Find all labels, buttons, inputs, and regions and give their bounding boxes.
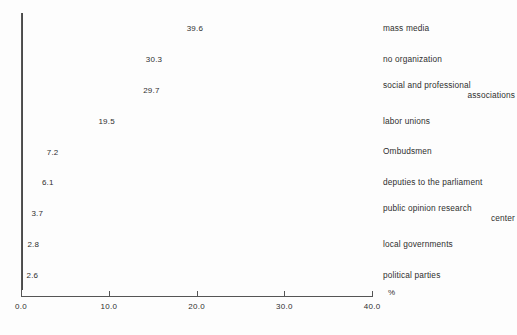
category-label-line: associations [383,90,515,101]
bar-value-label: 19.5 [21,116,192,125]
x-axis-tick [109,291,110,297]
category-label: labor unions [383,116,515,127]
x-axis-tick-label: 40.0 [364,302,381,311]
bar-value-label: 2.8 [21,239,46,248]
x-axis-tick [21,291,22,297]
bar-value-label: 7.2 [21,147,84,156]
bar-row: 30.3 [21,44,287,75]
category-label: social and professionalassociations [383,80,515,101]
bar-value-label: 30.3 [21,55,287,64]
category-label: no organization [383,54,515,65]
bar-row: 39.6 [21,13,369,44]
category-label-line: political parties [383,270,440,280]
x-axis-tick-label: 20.0 [188,302,205,311]
x-axis-tick-label: 30.0 [276,302,293,311]
category-label-line: local governments [383,239,453,249]
category-label-line: Ombudsmen [383,146,432,156]
bar-value-label: 2.6 [21,270,44,279]
bar-row: 7.2 [21,136,84,167]
category-label-line: no organization [383,54,442,64]
category-label: political parties [383,270,515,281]
category-label-line: center [383,213,515,224]
category-label: public opinion researchcenter [383,203,515,224]
category-label-line: labor unions [383,116,430,126]
bar-row: 3.7 [21,198,53,229]
axis-unit-label: % [388,288,395,297]
bar-value-label: 3.7 [21,209,53,218]
bar-row: 6.1 [21,167,75,198]
x-axis-tick-label: 0.0 [15,302,27,311]
category-label: local governments [383,239,515,250]
bar-value-label: 39.6 [21,24,369,33]
bar-row: 2.6 [21,259,44,290]
bar-value-label: 6.1 [21,178,75,187]
category-label: deputies to the parliament [383,177,515,188]
category-label: mass media [383,23,515,34]
chart-figure: 39.630.329.719.57.26.13.72.82.6 0.010.02… [0,0,517,335]
x-axis-tick [284,291,285,297]
category-label-line: social and professional [383,80,471,90]
bar-row: 2.8 [21,229,46,260]
x-axis-tick [197,291,198,297]
category-label-line: public opinion research [383,203,472,213]
category-label: Ombudsmen [383,146,515,157]
plot-area: 39.630.329.719.57.26.13.72.82.6 0.010.02… [0,0,517,335]
y-axis-line [21,13,22,296]
bar-row: 19.5 [21,105,192,136]
x-axis-tick-label: 10.0 [100,302,117,311]
category-label-line: deputies to the parliament [383,177,482,187]
x-axis-tick [372,291,373,297]
bar-row: 29.7 [21,75,282,106]
bar-value-label: 29.7 [21,85,282,94]
category-label-line: mass media [383,23,429,33]
